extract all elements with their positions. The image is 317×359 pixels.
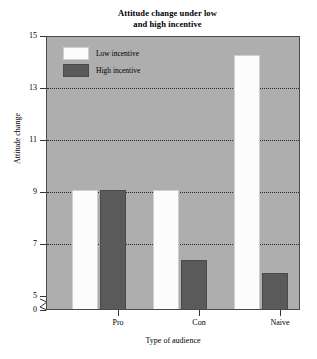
bar-naive-low-incentive	[234, 55, 260, 309]
bar-con-high-incentive	[181, 260, 207, 309]
y-tick-label-11: 11	[29, 136, 37, 144]
bar-chart-figure: Attitude change under low and high incen…	[0, 0, 317, 359]
legend-label-low-incentive: Low incentive	[96, 49, 139, 58]
chart-title: Attitude change under low and high incen…	[40, 8, 295, 29]
gridline-11	[47, 140, 299, 141]
gridline-13	[47, 88, 299, 89]
x-tick-label-con: Con	[192, 318, 205, 327]
x-tick-mark-pro	[118, 310, 119, 316]
y-tick-label-0: 0	[33, 306, 37, 314]
y-tick-label-13: 13	[29, 84, 37, 92]
legend-label-high-incentive: High incentive	[96, 66, 140, 75]
y-tick-label-7: 7	[33, 240, 37, 248]
x-tick-label-pro: Pro	[112, 318, 123, 327]
bar-pro-low-incentive	[72, 190, 98, 309]
bar-pro-high-incentive	[100, 190, 126, 309]
bar-naive-high-incentive	[262, 273, 288, 309]
x-tick-label-naive: Naive	[270, 318, 289, 327]
legend-item-low-incentive: Low incentive	[63, 45, 183, 62]
legend: Low incentive High incentive	[63, 45, 183, 79]
y-tick-label-5: 5	[33, 292, 37, 300]
x-tick-mark-con	[199, 310, 200, 316]
x-tick-mark-naive	[280, 310, 281, 316]
plot-area: Low incentive High incentive	[46, 36, 300, 310]
y-axis-title: Attitude change	[13, 84, 22, 194]
high-incentive-swatch-icon	[63, 64, 89, 77]
low-incentive-swatch-icon	[63, 47, 89, 60]
bar-con-low-incentive	[153, 190, 179, 309]
y-tick-label-15: 15	[29, 32, 37, 40]
legend-item-high-incentive: High incentive	[63, 62, 183, 79]
chart-title-line-1: Attitude change under low	[40, 8, 295, 19]
x-axis-title: Type of audience	[46, 336, 300, 345]
chart-title-line-2: and high incentive	[40, 19, 295, 30]
y-tick-label-9: 9	[33, 188, 37, 196]
